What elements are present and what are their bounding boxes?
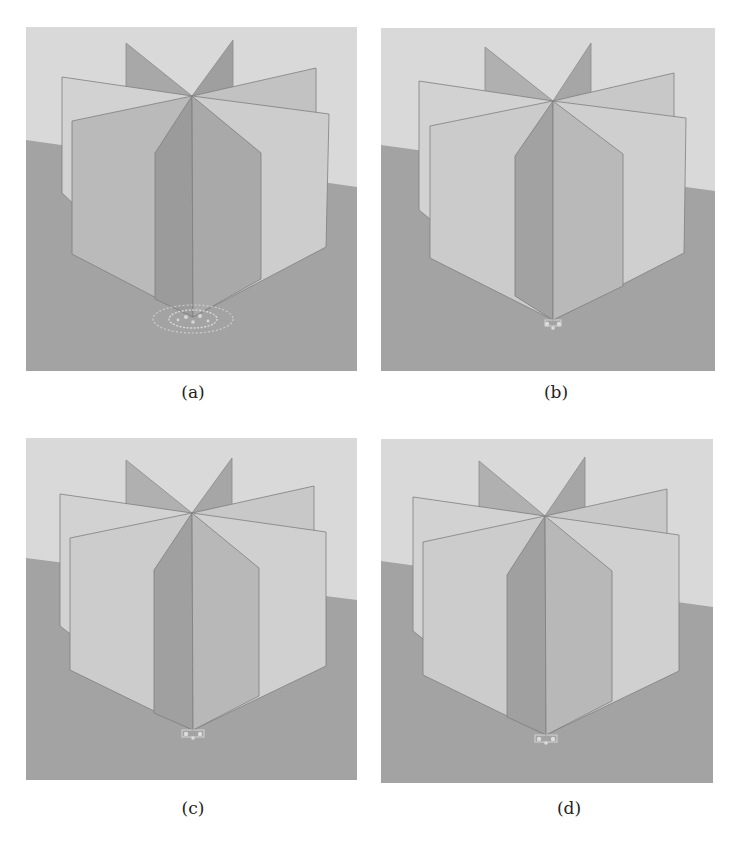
rendered-3d-star-structure bbox=[26, 27, 357, 371]
subfigure-a-render bbox=[26, 27, 357, 371]
rendered-3d-star-structure bbox=[381, 439, 713, 783]
subfigure-caption-b: (b) bbox=[526, 382, 586, 402]
subfigure-c-render bbox=[26, 438, 357, 780]
subfigure-caption-d: (d) bbox=[539, 798, 599, 818]
rendered-3d-star-structure bbox=[26, 438, 357, 780]
subfigure-b-render bbox=[381, 28, 715, 371]
subfigure-caption-c: (c) bbox=[163, 798, 223, 818]
subfigure-caption-a: (a) bbox=[163, 382, 223, 402]
subfigure-d-render bbox=[381, 439, 713, 783]
cropped-header-text bbox=[0, 0, 737, 4]
rendered-3d-star-structure bbox=[381, 28, 715, 371]
